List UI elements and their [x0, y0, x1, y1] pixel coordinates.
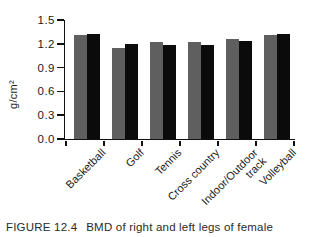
y-axis-tick-0.6 [57, 91, 64, 93]
x-axis-tick-6 [293, 141, 295, 146]
bar-tennis-right-leg [150, 42, 163, 139]
bar-golf-left-leg [125, 44, 138, 139]
figure-caption-number: FIGURE 12.4 [6, 221, 77, 233]
y-axis-tick-0.9 [57, 67, 64, 69]
figure-caption-text: BMD of right and left legs of female [86, 221, 273, 233]
y-axis-tick-label-1.5: 1.5 [23, 14, 55, 27]
bar-volleyball-left-leg [277, 34, 290, 140]
x-axis-tick-0 [65, 141, 67, 146]
y-axis-tick-label-0.3: 0.3 [23, 109, 55, 122]
y-axis-tick-label-0.9: 0.9 [23, 61, 55, 74]
bar-basketball-left-leg [87, 34, 100, 140]
bar-cross-country-left-leg [201, 45, 214, 139]
y-axis-tick-1.5 [57, 19, 64, 21]
y-axis-title: g/cm² [7, 80, 19, 109]
y-axis-tick-0.0 [57, 138, 64, 140]
y-axis-tick-label-0.0: 0.0 [23, 133, 55, 146]
x-axis-label-golf: Golf [124, 147, 146, 169]
x-axis-label-basketball: Basketball [64, 147, 108, 191]
y-axis-tick-0.3 [57, 114, 64, 116]
bar-basketball-right-leg [74, 35, 87, 139]
bar-golf-right-leg [112, 48, 125, 139]
bar-indoor-outdoor-track-right-leg [226, 39, 239, 139]
bmd-bar-chart: g/cm² 1.51.20.90.60.30.0BasketballGolfTe… [0, 0, 311, 215]
x-axis-tick-4 [217, 141, 219, 146]
x-axis-tick-3 [179, 141, 181, 146]
figure-caption: FIGURE 12.4BMD of right and left legs of… [6, 221, 311, 233]
x-axis-label-tennis: Tennis [154, 147, 185, 178]
plot-area: 1.51.20.90.60.30.0BasketballGolfTennisCr… [64, 20, 295, 140]
bar-tennis-left-leg [163, 45, 176, 139]
bar-volleyball-right-leg [264, 35, 277, 139]
bar-indoor-outdoor-track-left-leg [239, 41, 252, 139]
y-axis-tick-label-0.6: 0.6 [23, 85, 55, 98]
figure-12-4: g/cm² 1.51.20.90.60.30.0BasketballGolfTe… [0, 0, 311, 237]
y-axis-tick-label-1.2: 1.2 [23, 37, 55, 50]
x-axis-tick-5 [255, 141, 257, 146]
bar-cross-country-right-leg [188, 42, 201, 139]
x-axis-tick-1 [103, 141, 105, 146]
x-axis-tick-2 [141, 141, 143, 146]
y-axis-tick-1.2 [57, 43, 64, 45]
